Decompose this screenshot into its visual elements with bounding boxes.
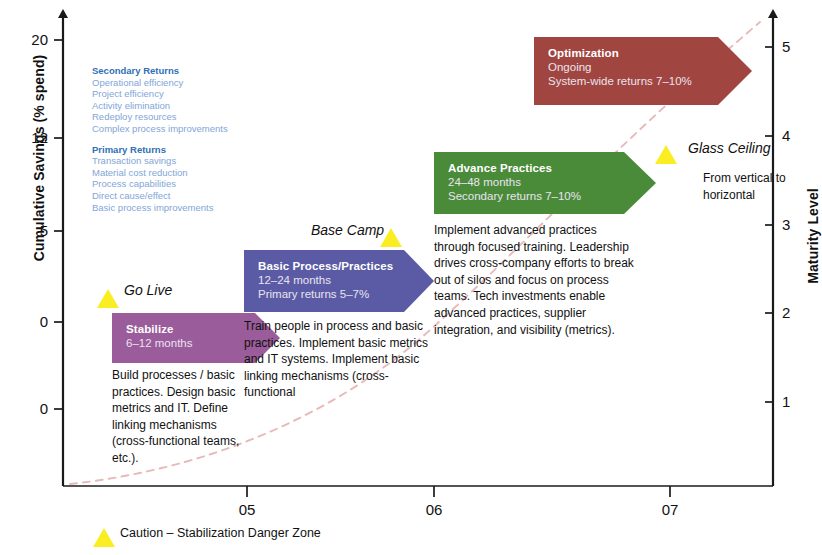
- primary-returns-item: Transaction savings: [92, 155, 228, 167]
- stage-chevron-advance-text: Advance Practices 24–48 months Secondary…: [448, 161, 630, 203]
- y-tick-right-3: 3: [782, 216, 822, 233]
- stage-returns: Secondary returns 7–10%: [448, 189, 630, 203]
- legend-spacer: [92, 135, 228, 144]
- stage-chevron-stabilize-text: Stabilize 6–12 months: [126, 322, 254, 350]
- secondary-returns-item: Project efficiency: [92, 88, 228, 100]
- stage-body-advance: Implement advanced practices through foc…: [434, 222, 640, 338]
- milestone-go-live-label: Go Live: [124, 282, 172, 298]
- x-tick-05: 05: [227, 501, 267, 518]
- glass-ceiling-note: From vertical to horizontal: [703, 170, 795, 203]
- stage-title: Optimization: [548, 46, 726, 60]
- milestone-go-live-marker-icon: [97, 289, 119, 308]
- milestone-glass-ceiling-marker-icon: [655, 145, 677, 164]
- primary-returns-item: Basic process improvements: [92, 202, 228, 214]
- y-tick-left-5: 5: [8, 222, 48, 239]
- milestone-base-camp-marker-icon: [380, 228, 402, 247]
- stage-title: Stabilize: [126, 322, 254, 336]
- y-tick-right-2: 2: [782, 304, 822, 321]
- stage-chevron-optimization-text: Optimization Ongoing System-wide returns…: [548, 46, 726, 88]
- y-tick-right-4: 4: [782, 127, 822, 144]
- stage-chevron-advance[interactable]: Advance Practices 24–48 months Secondary…: [434, 152, 656, 214]
- stage-chevron-optimization[interactable]: Optimization Ongoing System-wide returns…: [534, 37, 752, 105]
- stage-returns: System-wide returns 7–10%: [548, 74, 726, 88]
- stage-title: Advance Practices: [448, 161, 630, 175]
- stage-title: Basic Process/Practices: [258, 259, 408, 273]
- stage-returns: Primary returns 5–7%: [258, 287, 408, 301]
- stage-chevron-basic[interactable]: Basic Process/Practices 12–24 months Pri…: [244, 250, 434, 312]
- stage-chevron-basic-text: Basic Process/Practices 12–24 months Pri…: [258, 259, 408, 301]
- secondary-returns-item: Operational efficiency: [92, 77, 228, 89]
- secondary-returns-heading: Secondary Returns: [92, 65, 228, 77]
- y-tick-right-1: 1: [782, 393, 822, 410]
- x-tick-07: 07: [650, 501, 690, 518]
- y-tick-left-0b: 0: [8, 400, 48, 417]
- secondary-returns-item: Activity elimination: [92, 100, 228, 112]
- stage-duration: 12–24 months: [258, 273, 408, 287]
- caution-legend-label: Caution – Stabilization Danger Zone: [120, 526, 321, 540]
- secondary-returns-item: Redeploy resources: [92, 111, 228, 123]
- primary-returns-heading: Primary Returns: [92, 144, 228, 156]
- primary-returns-item: Material cost reduction: [92, 167, 228, 179]
- stage-body-stabilize: Build processes / basic practices. Desig…: [112, 367, 254, 467]
- milestone-glass-ceiling-label: Glass Ceiling: [688, 140, 770, 156]
- primary-returns-item: Direct cause/effect: [92, 190, 228, 202]
- returns-legend: Secondary Returns Operational efficiency…: [92, 65, 228, 213]
- stage-body-basic: Train people in process and basic practi…: [244, 318, 429, 401]
- y-axis-left-label: Cumulative Savings (% spend): [31, 33, 47, 283]
- stage-duration: Ongoing: [548, 60, 726, 74]
- stage-duration: 6–12 months: [126, 336, 254, 350]
- y-tick-right-5: 5: [782, 38, 822, 55]
- y-tick-left-20: 20: [8, 31, 48, 48]
- stage-duration: 24–48 months: [448, 175, 630, 189]
- secondary-returns-item: Complex process improvements: [92, 123, 228, 135]
- x-tick-06: 06: [414, 501, 454, 518]
- milestone-base-camp-label: Base Camp: [311, 222, 384, 238]
- caution-marker-icon: [93, 528, 115, 547]
- y-tick-left-12: 12: [8, 129, 48, 146]
- primary-returns-item: Process capabilities: [92, 178, 228, 190]
- y-tick-left-0a: 0: [8, 313, 48, 330]
